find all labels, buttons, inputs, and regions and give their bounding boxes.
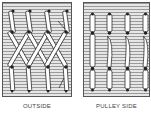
pulley-side-label: PULLEY SIDE [83, 103, 150, 109]
outside-lacing-diagram [3, 3, 73, 98]
pulley-side-lacing-diagram [84, 3, 151, 98]
pulley-side-lacing-panel [83, 2, 150, 97]
outside-label: OUTSIDE [2, 103, 72, 109]
outside-lacing-panel [2, 2, 72, 97]
